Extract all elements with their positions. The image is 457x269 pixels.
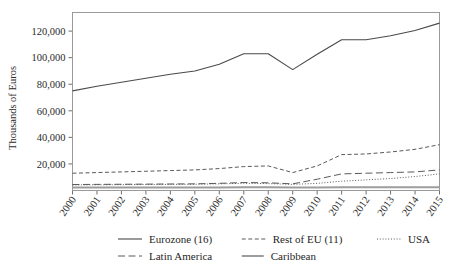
x-tick-label: 2010 (302, 194, 323, 218)
x-tick-label: 2013 (375, 194, 396, 218)
x-tick-label: 2012 (351, 194, 372, 218)
chart-page: Thousands of Euros 20,00040,00060,00080,… (0, 0, 457, 269)
x-tick-label: 2002 (106, 194, 127, 218)
y-axis-title: Thousands of Euros (7, 66, 18, 150)
legend-label[interactable]: Caribbean (271, 250, 317, 262)
x-tick-label: 2011 (326, 194, 347, 217)
chart-legend: Eurozone (16)Rest of EU (11)USALatin Ame… (118, 233, 430, 262)
y-axis-title-group: Thousands of Euros (7, 66, 18, 150)
y-tick-label: 60,000 (37, 106, 66, 117)
x-tick-label: 2008 (253, 194, 274, 218)
x-tick-label: 2005 (179, 194, 200, 218)
series-line-usa (73, 174, 440, 185)
y-tick-label: 20,000 (37, 159, 66, 170)
x-tick-label: 2009 (277, 194, 298, 218)
legend-label[interactable]: Eurozone (16) (149, 233, 213, 246)
series-line-rest-of-eu-11 (73, 145, 440, 174)
legend-label[interactable]: Rest of EU (11) (273, 233, 343, 246)
x-tick-label: 2006 (204, 194, 225, 218)
legend-label[interactable]: Latin America (149, 250, 212, 262)
x-tick-label: 2007 (228, 194, 249, 218)
x-tick-label: 2015 (424, 194, 445, 218)
x-tick-label: 2004 (155, 194, 176, 218)
y-tick-label: 100,000 (31, 52, 65, 63)
x-tick-label: 2014 (400, 194, 421, 218)
y-tick-label: 120,000 (31, 26, 65, 37)
legend-label[interactable]: USA (408, 233, 430, 245)
x-tick-label: 2000 (57, 194, 78, 218)
y-axis-ticks: 20,00040,00060,00080,000100,000120,000 (31, 26, 72, 170)
x-tick-label: 2001 (82, 194, 103, 218)
y-tick-label: 80,000 (37, 79, 66, 90)
x-tick-label: 2003 (130, 194, 151, 218)
x-axis-ticks: 2000200120022003200420052006200720082009… (57, 191, 445, 218)
series-line-eurozone-16 (73, 23, 440, 91)
series-layer (73, 23, 440, 187)
plot-frame (73, 13, 440, 191)
line-chart: Thousands of Euros 20,00040,00060,00080,… (0, 0, 457, 269)
y-tick-label: 40,000 (37, 132, 66, 143)
